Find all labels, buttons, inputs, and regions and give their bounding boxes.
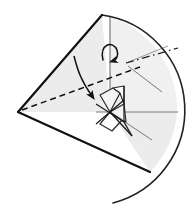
figure-root: Line drawing of a cone seen from the sid… <box>0 0 189 217</box>
cone-diagram-svg <box>0 0 189 217</box>
